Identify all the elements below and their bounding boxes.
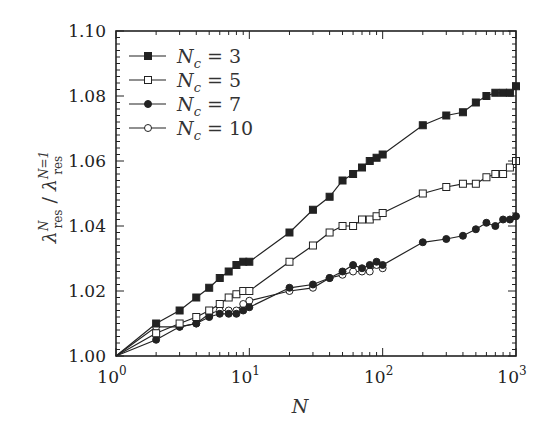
legend-label: Nc = 10 [176,117,253,143]
legend-item: Nc = 7 [129,93,241,119]
x-tick-label: 103 [497,364,526,387]
x-tick-label: 102 [364,364,393,387]
x-axis-title: N [291,395,310,417]
chart: 1.001.021.041.061.081.10 100101102103 Nc… [0,0,551,432]
legend-label: Nc = 5 [176,69,241,95]
legend-label: Nc = 3 [176,45,241,71]
y-tick-labels: 1.001.021.041.061.081.10 [68,21,106,366]
y-tick-label: 1.10 [68,21,106,41]
y-tick-label: 1.08 [68,86,106,106]
y-tick-label: 1.02 [68,281,106,301]
svg-text:λNres / λN=1res: λNres / λN=1res [37,151,65,244]
legend-item: Nc = 5 [129,69,241,95]
x-tick-label: 101 [231,364,260,387]
x-tick-label: 100 [97,364,126,387]
y-tick-label: 1.06 [68,151,106,171]
y-tick-label: 1.00 [68,346,106,366]
y-tick-label: 1.04 [68,216,106,236]
y-title-lambda: λ [38,231,60,244]
legend-item: Nc = 3 [129,45,241,71]
legend-item: Nc = 10 [129,117,253,143]
y-axis-title: λNres / λN=1res [37,151,65,244]
series-nc5 [116,158,520,357]
legend: Nc = 3Nc = 5Nc = 7Nc = 10 [129,45,253,143]
legend-label: Nc = 7 [176,93,241,119]
x-tick-labels: 100101102103 [97,364,526,387]
